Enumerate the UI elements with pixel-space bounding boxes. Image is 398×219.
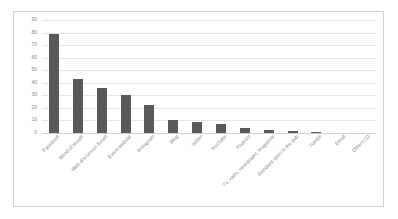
x-axis-tick-label: Email: [334, 134, 346, 146]
bar[interactable]: [264, 130, 274, 133]
x-axis-tick-label: Event website: [107, 134, 133, 160]
y-axis-tick-label: 90: [32, 17, 37, 22]
plot-area: [42, 20, 376, 133]
y-axis-tick-label: 0: [34, 130, 37, 135]
bar-slot: [233, 20, 257, 133]
bar-slot: [281, 20, 305, 133]
bar[interactable]: [240, 128, 250, 133]
x-axis-tick-label: Tumblr: [308, 134, 322, 148]
x-axis-tick-label: Podcast: [235, 134, 251, 150]
bar-slot: [185, 20, 209, 133]
y-axis-tick-label: 60: [32, 55, 37, 60]
x-axis-tick-label: Blog: [169, 134, 180, 145]
bar[interactable]: [73, 79, 83, 133]
bar-slot: [137, 20, 161, 133]
y-axis-tick-label: 80: [32, 30, 37, 35]
bar-slot: [352, 20, 376, 133]
bar-slot: [304, 20, 328, 133]
y-axis: 0102030405060708090: [14, 20, 40, 133]
x-axis-tick-label: YouTube: [210, 134, 228, 152]
bar[interactable]: [288, 131, 298, 133]
x-axis-tick-label: Facebook: [41, 134, 60, 153]
y-axis-tick-label: 20: [32, 105, 37, 110]
bar-slot: [161, 20, 185, 133]
y-axis-tick-label: 50: [32, 68, 37, 73]
bar[interactable]: [97, 88, 107, 133]
x-axis-tick-label: Instagram: [137, 134, 156, 153]
bar-slot: [114, 20, 138, 133]
bar[interactable]: [168, 120, 178, 133]
bar-slot: [209, 20, 233, 133]
y-axis-tick-label: 10: [32, 118, 37, 123]
y-axis-tick-label: 40: [32, 80, 37, 85]
bar-slot: [42, 20, 66, 133]
bar-series: [42, 20, 376, 133]
bar[interactable]: [144, 105, 154, 133]
bar-slot: [328, 20, 352, 133]
bar[interactable]: [192, 122, 202, 133]
x-axis-tick-label: twitter: [191, 134, 204, 147]
y-axis-tick-label: 70: [32, 43, 37, 48]
bar[interactable]: [121, 95, 131, 133]
bar[interactable]: [49, 34, 59, 133]
y-axis-tick-label: 30: [32, 93, 37, 98]
bar[interactable]: [216, 124, 226, 133]
bar-slot: [257, 20, 281, 133]
chart-card: 0102030405060708090 FacebookWord of mout…: [13, 11, 384, 207]
bar-slot: [66, 20, 90, 133]
bar-slot: [90, 20, 114, 133]
x-axis: FacebookWord of mouthWeb discussion foru…: [42, 134, 376, 204]
x-axis-tick-label: Others (1): [351, 134, 370, 153]
bar[interactable]: [311, 132, 321, 133]
